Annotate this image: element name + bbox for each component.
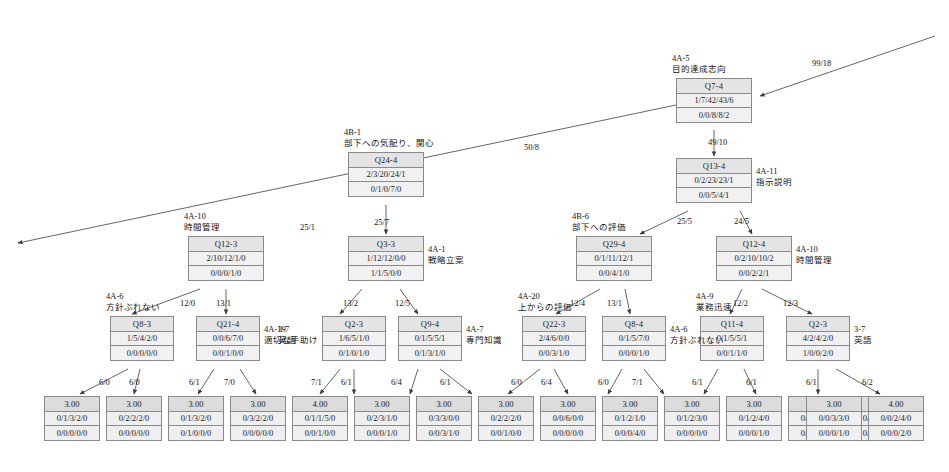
node-distribution-b: 0/0/0/1/0: [603, 346, 665, 360]
decision-node[interactable]: Q3-31/12/12/0/01/1/5/0/0: [348, 236, 424, 281]
leaf-value: 3.00: [355, 397, 409, 412]
node-question-id: Q21-4: [197, 317, 259, 332]
edge-label: 7/1: [311, 377, 322, 387]
node-annotation-text: 時間管理: [796, 255, 832, 266]
node-distribution-b: 0/0/1/0/0: [197, 346, 259, 360]
edge-label: 25/1: [300, 222, 315, 232]
leaf-node[interactable]: 3.000/1/2/3/00/0/0/0/0: [664, 396, 720, 441]
node-annotation-text: 英語: [854, 335, 872, 346]
node-question-id: Q13-4: [677, 159, 751, 174]
decision-node[interactable]: Q12-40/2/10/10/20/0/2/2/1: [716, 236, 792, 281]
leaf-node[interactable]: 3.000/2/2/2/00/0/1/0/0: [478, 396, 534, 441]
node-distribution-b: 0/1/3/1/0: [399, 346, 461, 360]
leaf-node[interactable]: 4.000/1/1/5/00/0/1/0/0: [292, 396, 348, 441]
node-distribution-a: 2/3/20/24/1: [349, 168, 423, 183]
edge-label: 12/4: [570, 298, 585, 308]
leaf-value: 4.00: [293, 397, 347, 412]
node-distribution-a: 0/2/10/10/2: [717, 252, 791, 267]
decision-node[interactable]: Q8-40/1/5/7/00/0/0/1/0: [602, 316, 666, 361]
edge-label: 50/8: [524, 142, 539, 152]
leaf-distribution-b: 0/0/0/1/0: [807, 426, 861, 440]
leaf-node[interactable]: 3.000/2/2/2/00/0/0/0/0: [106, 396, 162, 441]
leaf-distribution-a: 0/2/3/1/0: [355, 412, 409, 427]
decision-node[interactable]: Q7-41/7/42/43/60/0/8/8/2: [676, 78, 752, 123]
decision-node[interactable]: Q2-34/2/4/2/01/0/0/2/0: [786, 316, 850, 361]
edge-label: 6/1: [440, 377, 451, 387]
node-annotation-code: 4A-7: [466, 324, 502, 335]
leaf-node[interactable]: 3.000/1/2/4/00/0/0/1/0: [726, 396, 782, 441]
leaf-node[interactable]: 3.000/3/2/2/00/0/0/0/0: [230, 396, 286, 441]
node-distribution-a: 4/2/4/2/0: [787, 332, 849, 347]
decision-node[interactable]: Q24-42/3/20/24/10/1/0/7/0: [348, 152, 424, 197]
node-question-id: Q29-4: [577, 237, 651, 252]
leaf-distribution-a: 0/2/2/2/0: [479, 412, 533, 427]
node-annotation: 4B-6部下への評価: [572, 211, 626, 233]
node-distribution-b: 0/0/2/2/1: [717, 266, 791, 280]
leaf-value: 3.00: [231, 397, 285, 412]
leaf-value: 3.00: [417, 397, 471, 412]
leaf-distribution-b: 0/0/0/0/0: [665, 426, 719, 440]
decision-node[interactable]: Q22-32/4/6/0/00/0/3/1/0: [522, 316, 586, 361]
decision-node[interactable]: Q8-31/5/4/2/00/0/0/0/0: [110, 316, 174, 361]
leaf-distribution-b: 0/0/0/0/0: [541, 426, 595, 440]
node-question-id: Q9-4: [399, 317, 461, 332]
node-distribution-b: 0/0/5/4/1: [677, 188, 751, 202]
node-annotation-text: 専門知識: [466, 335, 502, 346]
node-annotation: 4A-5目的達成志向: [672, 53, 726, 75]
node-question-id: Q3-3: [349, 237, 423, 252]
leaf-node[interactable]: 3.000/0/6/0/00/0/0/0/0: [540, 396, 596, 441]
edge-label: 6/0: [598, 377, 609, 387]
leaf-node[interactable]: 4.000/0/2/4/00/0/0/2/0: [868, 396, 924, 441]
leaf-distribution-b: 0/0/0/0/0: [45, 426, 99, 440]
decision-node[interactable]: Q2-31/6/5/1/00/1/0/1/0: [322, 316, 386, 361]
node-annotation-code: 4A-5: [672, 53, 726, 64]
node-annotation: 3-7英語: [278, 324, 296, 346]
leaf-distribution-a: 0/0/3/3/0: [807, 412, 861, 427]
leaf-value: 3.00: [807, 397, 861, 412]
node-distribution-b: 0/0/0/1/0: [189, 266, 263, 280]
leaf-distribution-a: 0/1/1/5/0: [293, 412, 347, 427]
node-distribution-a: 0/1/5/5/1: [399, 332, 461, 347]
node-annotation-text: 上からの評価: [518, 302, 572, 313]
leaf-value: 3.00: [479, 397, 533, 412]
node-distribution-a: 0/2/23/23/1: [677, 174, 751, 189]
node-distribution-a: 1/7/42/43/6: [677, 94, 751, 109]
leaf-distribution-b: 0/0/1/0/0: [479, 426, 533, 440]
decision-node[interactable]: Q9-40/1/5/5/10/1/3/1/0: [398, 316, 462, 361]
node-distribution-a: 0/1/5/7/0: [603, 332, 665, 347]
node-annotation-code: 4A-9: [696, 291, 732, 302]
decision-tree-canvas: Q7-41/7/42/43/60/0/8/8/2Q13-40/2/23/23/1…: [0, 0, 949, 472]
leaf-value: 4.00: [869, 397, 923, 412]
decision-node[interactable]: Q21-40/0/6/7/00/0/1/0/0: [196, 316, 260, 361]
node-distribution-a: 0/1/11/12/1: [577, 252, 651, 267]
leaf-node[interactable]: 3.000/3/3/0/00/0/3/1/0: [416, 396, 472, 441]
node-annotation-code: 4B-6: [572, 211, 626, 222]
node-question-id: Q22-3: [523, 317, 585, 332]
node-question-id: Q2-3: [787, 317, 849, 332]
node-distribution-b: 0/1/0/7/0: [349, 182, 423, 196]
leaf-distribution-b: 0/0/0/1/0: [727, 426, 781, 440]
node-annotation-text: 業務迅速: [696, 302, 732, 313]
node-distribution-b: 0/0/4/1/0: [577, 266, 651, 280]
node-annotation: 4A-6方針ぶれない: [106, 291, 160, 313]
node-annotation-code: 4A-10: [796, 244, 832, 255]
leaf-distribution-a: 0/1/3/2/0: [169, 412, 223, 427]
node-annotation-code: 4B-1: [344, 127, 434, 138]
leaf-node[interactable]: 3.000/0/3/3/00/0/0/1/0: [806, 396, 862, 441]
leaf-distribution-a: 0/0/2/4/0: [869, 412, 923, 427]
decision-node[interactable]: Q12-32/10/12/1/00/0/0/1/0: [188, 236, 264, 281]
leaf-node[interactable]: 3.000/1/3/2/00/1/0/0/0: [168, 396, 224, 441]
decision-node[interactable]: Q29-40/1/11/12/10/0/4/1/0: [576, 236, 652, 281]
node-annotation-text: 指示説明: [756, 177, 792, 188]
node-annotation: 4A-1戦略立案: [428, 244, 464, 266]
node-annotation: 3-7英語: [854, 324, 872, 346]
node-annotation-code: 4A-20: [518, 291, 572, 302]
edge-label: 6/1: [189, 377, 200, 387]
leaf-distribution-b: 0/0/0/2/0: [869, 426, 923, 440]
leaf-node[interactable]: 3.000/1/2/1/00/0/0/4/0: [602, 396, 658, 441]
leaf-node[interactable]: 3.000/1/3/2/00/0/0/0/0: [44, 396, 100, 441]
decision-node[interactable]: Q13-40/2/23/23/10/0/5/4/1: [676, 158, 752, 203]
edge-label: 7/1: [632, 377, 643, 387]
node-annotation: 4A-6方針ぶれない: [670, 324, 724, 346]
leaf-node[interactable]: 3.000/2/3/1/00/0/0/1/0: [354, 396, 410, 441]
